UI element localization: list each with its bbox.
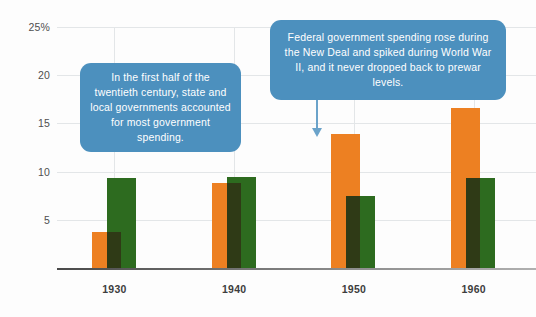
axis-baseline — [57, 268, 536, 270]
arrow-shaft — [316, 100, 318, 130]
y-axis: 510152025% — [0, 0, 50, 317]
y-tick-label: 10 — [8, 166, 50, 178]
callout-federal-text: Federal government spending rose during … — [280, 30, 496, 90]
bar-overlap-1930 — [107, 232, 121, 268]
y-tick-label: 5 — [8, 214, 50, 226]
x-tick-label-1940: 1940 — [199, 283, 269, 295]
callout-state-local-text: In the first half of the twentieth centu… — [90, 70, 231, 145]
y-tick-label: 20 — [8, 69, 50, 81]
callout-state-local: In the first half of the twentieth centu… — [80, 63, 241, 152]
arrow-head — [312, 128, 322, 137]
x-tick-label-1950: 1950 — [319, 283, 389, 295]
y-tick-label: 15 — [8, 117, 50, 129]
bar-chart: 510152025% In the first half of the twen… — [0, 0, 536, 317]
bar-overlap-1950 — [346, 196, 360, 268]
callout-arrow-down-icon — [311, 100, 323, 138]
bar-overlap-1940 — [227, 183, 241, 268]
y-tick-label: 25% — [8, 21, 50, 33]
callout-federal: Federal government spending rose during … — [270, 20, 506, 100]
x-tick-label-1960: 1960 — [439, 283, 509, 295]
x-tick-label-1930: 1930 — [79, 283, 149, 295]
bar-overlap-1960 — [466, 178, 480, 268]
